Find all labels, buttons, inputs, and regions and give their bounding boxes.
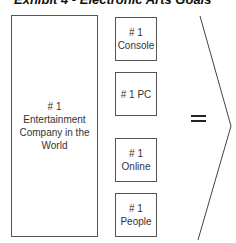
- chevron-arrow-icon: [0, 0, 236, 243]
